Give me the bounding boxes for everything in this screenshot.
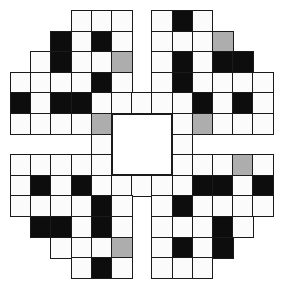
white-cell[interactable] (151, 195, 173, 217)
white-cell[interactable] (172, 216, 194, 238)
white-cell[interactable] (192, 216, 214, 238)
white-cell[interactable] (10, 113, 32, 135)
white-cell[interactable] (30, 92, 52, 114)
white-cell[interactable] (10, 154, 32, 176)
white-cell[interactable] (71, 113, 93, 135)
black-cell (172, 72, 194, 94)
white-cell[interactable] (30, 195, 52, 217)
white-cell[interactable] (192, 237, 214, 259)
white-cell[interactable] (111, 216, 133, 238)
white-cell[interactable] (91, 154, 113, 176)
white-cell[interactable] (131, 92, 153, 114)
white-cell[interactable] (71, 216, 93, 238)
white-cell[interactable] (151, 31, 173, 53)
white-cell[interactable] (172, 31, 194, 53)
white-cell[interactable] (212, 154, 234, 176)
black-cell (212, 175, 234, 197)
white-cell[interactable] (71, 154, 93, 176)
white-cell[interactable] (111, 31, 133, 53)
white-cell[interactable] (192, 72, 214, 94)
white-cell[interactable] (71, 10, 93, 32)
white-cell[interactable] (172, 154, 194, 176)
white-cell[interactable] (50, 72, 72, 94)
white-cell[interactable] (91, 92, 113, 114)
white-cell[interactable] (151, 10, 173, 32)
white-cell[interactable] (172, 257, 194, 279)
white-cell[interactable] (71, 72, 93, 94)
white-cell[interactable] (192, 257, 214, 279)
white-cell[interactable] (151, 72, 173, 94)
white-cell[interactable] (192, 31, 214, 53)
white-cell[interactable] (111, 92, 133, 114)
white-cell[interactable] (111, 10, 133, 32)
white-cell[interactable] (252, 92, 274, 114)
black-cell (91, 195, 113, 217)
white-cell[interactable] (151, 216, 173, 238)
white-cell[interactable] (50, 113, 72, 135)
white-cell[interactable] (91, 51, 113, 73)
white-cell[interactable] (192, 10, 214, 32)
shaded-cell[interactable] (212, 31, 234, 53)
white-cell[interactable] (91, 134, 113, 156)
white-cell[interactable] (252, 195, 274, 217)
white-cell[interactable] (111, 72, 133, 94)
white-cell[interactable] (71, 257, 93, 279)
white-cell[interactable] (212, 72, 234, 94)
white-cell[interactable] (232, 216, 254, 238)
white-cell[interactable] (91, 175, 113, 197)
white-cell[interactable] (172, 134, 194, 156)
white-cell[interactable] (111, 175, 133, 197)
white-cell[interactable] (192, 195, 214, 217)
white-cell[interactable] (111, 195, 133, 217)
white-cell[interactable] (232, 175, 254, 197)
white-cell[interactable] (91, 237, 113, 259)
white-cell[interactable] (50, 237, 72, 259)
white-cell[interactable] (30, 72, 52, 94)
shaded-cell[interactable] (192, 113, 214, 135)
white-cell[interactable] (71, 51, 93, 73)
black-cell (91, 72, 113, 94)
white-cell[interactable] (151, 175, 173, 197)
white-cell[interactable] (252, 72, 274, 94)
shaded-cell[interactable] (91, 113, 113, 135)
white-cell[interactable] (71, 237, 93, 259)
shaded-cell[interactable] (232, 154, 254, 176)
white-cell[interactable] (71, 195, 93, 217)
white-cell[interactable] (10, 175, 32, 197)
white-cell[interactable] (10, 72, 32, 94)
black-cell (30, 216, 52, 238)
black-cell (30, 175, 52, 197)
white-cell[interactable] (30, 113, 52, 135)
white-cell[interactable] (232, 195, 254, 217)
white-cell[interactable] (212, 113, 234, 135)
white-cell[interactable] (30, 51, 52, 73)
white-cell[interactable] (10, 195, 32, 217)
white-cell[interactable] (252, 154, 274, 176)
shaded-cell[interactable] (111, 51, 133, 73)
white-cell[interactable] (172, 175, 194, 197)
white-cell[interactable] (212, 92, 234, 114)
black-cell (71, 175, 93, 197)
white-cell[interactable] (151, 51, 173, 73)
white-cell[interactable] (30, 154, 52, 176)
white-cell[interactable] (91, 10, 113, 32)
white-cell[interactable] (172, 113, 194, 135)
white-cell[interactable] (232, 72, 254, 94)
white-cell[interactable] (212, 195, 234, 217)
shaded-cell[interactable] (111, 237, 133, 259)
white-cell[interactable] (232, 113, 254, 135)
white-cell[interactable] (151, 237, 173, 259)
black-cell (172, 51, 194, 73)
white-cell[interactable] (252, 113, 274, 135)
white-cell[interactable] (151, 257, 173, 279)
white-cell[interactable] (192, 154, 214, 176)
white-cell[interactable] (50, 195, 72, 217)
white-cell[interactable] (151, 92, 173, 114)
white-cell[interactable] (71, 31, 93, 53)
white-cell[interactable] (111, 257, 133, 279)
white-cell[interactable] (50, 175, 72, 197)
white-cell[interactable] (172, 92, 194, 114)
white-cell[interactable] (50, 154, 72, 176)
white-cell[interactable] (131, 175, 153, 197)
white-cell[interactable] (192, 51, 214, 73)
